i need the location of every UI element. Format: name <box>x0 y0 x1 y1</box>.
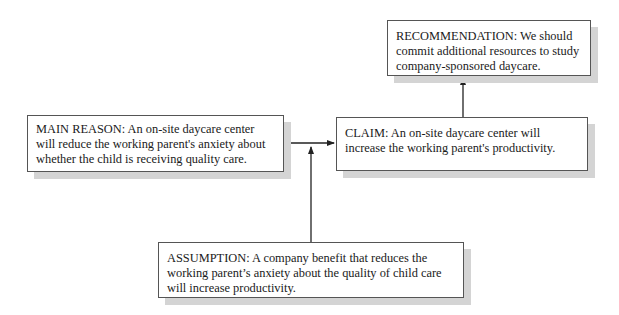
claim-box: CLAIM: An on-site daycare center will in… <box>336 117 588 171</box>
main-reason-box: MAIN REASON: An on-site daycare center w… <box>27 115 284 172</box>
assumption-box: ASSUMPTION: A company benefit that reduc… <box>158 242 464 298</box>
claim-text: CLAIM: An on-site daycare center will in… <box>345 126 555 155</box>
recommendation-text: RECOMMENDATION: We should commit additio… <box>396 29 579 73</box>
assumption-text: ASSUMPTION: A company benefit that reduc… <box>167 251 442 295</box>
recommendation-box: RECOMMENDATION: We should commit additio… <box>387 20 591 76</box>
main-reason-text: MAIN REASON: An on-site daycare center w… <box>36 122 265 166</box>
